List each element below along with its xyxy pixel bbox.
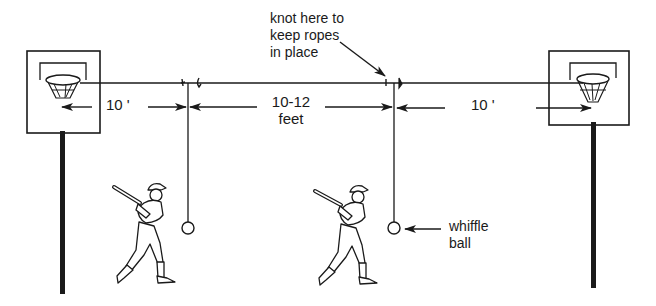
dimension-arrows [62,42,591,229]
middle-hanging-rope [388,83,400,234]
left-distance-label: 10 ' [106,96,130,113]
whiffle-ball-icon [388,222,400,234]
middle-distance-label: 10-12 feet [262,93,320,127]
ball-note-line: ball [449,235,488,252]
ball-note-line: whiffle [449,218,488,235]
knot-note-line: knot here to [270,10,344,27]
right-backboard [549,51,629,125]
knot-note-line: keep ropes [270,27,344,44]
ball-note: whiffle ball [449,218,488,252]
knot-note-line: in place [270,44,344,61]
left-pole [60,131,65,294]
batter-figure-middle [315,186,377,285]
middle-distance-value: 10-12 [262,93,320,110]
knot-note: knot here to keep ropes in place [270,10,344,61]
left-hanging-rope [182,83,194,234]
middle-distance-unit: feet [262,110,320,127]
whiffle-ball-icon [182,222,194,234]
hoop-rim-icon [40,63,86,98]
left-basketball-hoop [27,51,100,294]
right-distance-label: 10 ' [471,96,495,113]
right-basketball-hoop [549,51,629,288]
knot-pointer-arrow-icon [340,42,385,76]
right-pole [591,122,596,288]
batter-figure-left [114,184,175,283]
